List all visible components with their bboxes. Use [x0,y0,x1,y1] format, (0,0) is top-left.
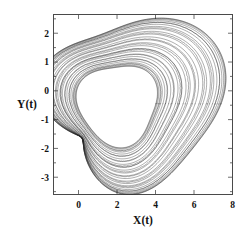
trajectory-loop [49,34,203,181]
trajectory-loop [74,64,160,150]
trajectory-loop [76,66,158,148]
y-tick-label: -1 [41,115,49,125]
x-tick-label: 2 [115,200,120,210]
y-axis-label: Y(t) [17,98,37,111]
x-tick-label: 0 [76,200,81,210]
x-tick-label: 8 [230,200,235,210]
x-tick-label: 4 [153,200,158,210]
phase-portrait-chart: 02468210-1-2-3 X(t) Y(t) [0,0,247,237]
y-tick-label: 0 [44,86,49,96]
y-tick-label: 2 [44,29,49,39]
trajectory-curves [39,18,226,195]
x-axis-label: X(t) [133,214,153,227]
trajectory-loop [61,50,180,167]
y-tick-label: 1 [44,57,49,67]
y-tick-label: -2 [41,144,49,154]
trajectory-loop [62,51,178,164]
x-tick-label: 6 [192,200,197,210]
trajectory-loop [53,40,194,176]
y-tick-label: -3 [41,173,49,183]
